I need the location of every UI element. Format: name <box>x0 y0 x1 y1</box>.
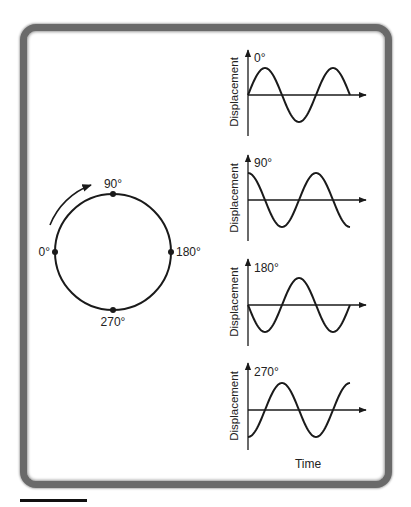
label-270: 270° <box>101 315 126 329</box>
graph-270: 270° Displacement <box>228 363 366 450</box>
label-180: 180° <box>176 245 201 259</box>
dot-180 <box>168 249 174 255</box>
phase-label-270: 270° <box>254 365 279 379</box>
label-90: 90° <box>104 177 122 191</box>
phase-diagram: 90° 180° 270° 0° 0° Displacement 90° Dis… <box>0 0 411 507</box>
clockwise-arrow-icon <box>50 185 91 225</box>
dot-270 <box>110 307 116 313</box>
phase-circle: 90° 180° 270° 0° <box>39 177 202 329</box>
scale-bar <box>20 499 87 502</box>
phase-label-180: 180° <box>254 261 279 275</box>
graph-180: 180° Displacement <box>228 259 366 346</box>
graph-0: 0° Displacement <box>228 50 366 136</box>
phase-label-0: 0° <box>254 51 266 65</box>
y-axis-label: Displacement <box>228 162 240 232</box>
dot-90 <box>110 191 116 197</box>
y-axis-label: Displacement <box>228 266 240 336</box>
graph-90: 90° Displacement <box>228 155 366 241</box>
y-axis-label: Displacement <box>228 56 240 126</box>
phase-label-90: 90° <box>254 156 272 170</box>
x-axis-label-time: Time <box>295 457 322 471</box>
dot-0 <box>52 249 58 255</box>
label-0: 0° <box>39 245 51 259</box>
y-axis-label: Displacement <box>228 370 240 440</box>
